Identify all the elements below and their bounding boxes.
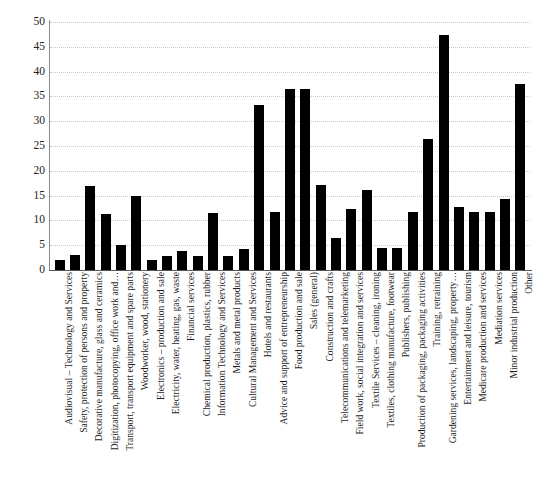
bar: [500, 199, 510, 270]
x-tick-label: Transport, transport equipment and spare…: [125, 272, 135, 451]
x-tick-label: Gardening services, landscaping, propert…: [448, 272, 458, 443]
bar: [177, 251, 187, 270]
x-tick-label: Other: [524, 272, 534, 294]
x-tick-label: Publishers, publishing: [401, 272, 411, 357]
y-tick-label: 45: [17, 41, 45, 53]
bar: [423, 139, 433, 270]
x-tick-label: Construction and crafts: [325, 272, 335, 362]
x-tick-label: Electricity, water, heating, gas, waste: [171, 272, 181, 414]
bar: [469, 212, 479, 270]
bar-chart: 05101520253035404550 Audiovisual – Techn…: [0, 0, 541, 489]
bar: [254, 105, 264, 270]
x-tick-label: Mediation services: [494, 272, 504, 345]
x-tick-label: Food production and sale: [294, 272, 304, 369]
bars-layer: [50, 22, 530, 270]
bar: [485, 212, 495, 270]
x-tick-label: Textile Services – cleaning, ironing: [371, 272, 381, 408]
plot-area: [50, 22, 530, 270]
bar: [439, 35, 449, 270]
x-tick-label: Advice and support of entrepreneurship: [279, 272, 289, 424]
bar: [270, 212, 280, 270]
y-tick-label: 20: [17, 165, 45, 177]
x-tick-label: Woodworker, wood, stationery: [140, 272, 150, 390]
y-tick-label: 50: [17, 16, 45, 28]
x-tick-label: Production of packaging, packaging activ…: [417, 272, 427, 448]
bar: [116, 245, 126, 270]
x-tick-label: Entertainment and leisure, tourism: [463, 272, 473, 405]
x-tick-label: Textiles, clothing manufacture, footwear: [386, 272, 396, 428]
x-tick-label: Metals and metal products: [232, 272, 242, 374]
figure-caption: [0, 481, 541, 489]
x-tick-label: Training, retraining: [432, 272, 442, 347]
y-tick-label: 25: [17, 140, 45, 152]
bar: [55, 260, 65, 270]
y-tick-label: 40: [17, 66, 45, 78]
bar: [239, 249, 249, 270]
bar: [377, 248, 387, 270]
bar: [147, 260, 157, 270]
y-tick-label: 35: [17, 91, 45, 103]
bar: [392, 248, 402, 270]
bar: [223, 256, 233, 270]
x-tick-label: Chemical production, plastics, rubber: [202, 272, 212, 416]
x-tick-label: Decorative manufacture, glass and cerami…: [94, 272, 104, 441]
x-axis-tick-labels: Audiovisual – Technology and ServicesSaf…: [0, 272, 541, 472]
bar: [208, 213, 218, 270]
bar: [408, 212, 418, 270]
x-tick-label: Audiovisual – Technology and Services: [64, 272, 74, 425]
bar: [300, 89, 310, 270]
x-tick-label: Sales (general): [309, 272, 319, 329]
x-tick-label: Telecommunications and telemarketing: [340, 272, 350, 423]
x-tick-label: Information Technology and Services: [217, 272, 227, 416]
bar: [331, 238, 341, 270]
x-tick-label: Safety, protection of persons and proper…: [79, 272, 89, 433]
x-tick-label: Cultural Management and Services: [248, 272, 258, 407]
bar: [131, 196, 141, 270]
x-tick-label: Hotels and restaurants: [263, 272, 273, 357]
bar: [85, 186, 95, 270]
bar: [346, 209, 356, 271]
x-axis-line: [49, 270, 532, 271]
bar: [101, 214, 111, 270]
bar: [162, 256, 172, 270]
bar: [362, 190, 372, 270]
bar: [285, 89, 295, 270]
bar: [454, 207, 464, 270]
bar: [70, 255, 80, 270]
x-tick-label: Electronics – production and sale: [156, 272, 166, 400]
bar: [193, 256, 203, 270]
bar: [515, 84, 525, 270]
y-tick-label: 15: [17, 190, 45, 202]
bar: [316, 185, 326, 270]
x-tick-label: Medicare production and services: [478, 272, 488, 402]
x-tick-label: Digitization, photocopying, office work …: [110, 272, 120, 450]
y-tick-label: 5: [17, 239, 45, 251]
x-tick-label: Minor industrial production: [509, 272, 519, 379]
y-axis-line: [49, 20, 50, 271]
y-tick-label: 30: [17, 115, 45, 127]
x-tick-label: Field work, social integration and servi…: [355, 272, 365, 435]
y-tick-label: 10: [17, 215, 45, 227]
x-tick-label: Financial services: [186, 272, 196, 341]
